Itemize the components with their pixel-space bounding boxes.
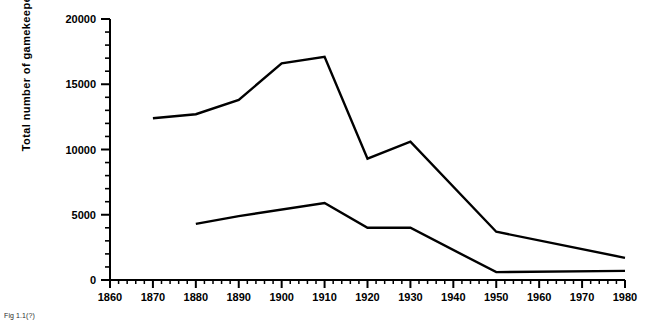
x-tick-label: 1870 — [141, 291, 165, 303]
x-tick-label: 1890 — [227, 291, 251, 303]
x-tick-label: 1910 — [312, 291, 336, 303]
x-tick-label: 1860 — [98, 291, 122, 303]
y-tick-label: 20000 — [65, 13, 96, 25]
line-chart-plot: 05000100001500020000 1860187018801890190… — [0, 0, 654, 310]
x-tick-label: 1900 — [269, 291, 293, 303]
x-tick-label: 1960 — [527, 291, 551, 303]
x-tick-label: 1930 — [398, 291, 422, 303]
x-tick-label: 1940 — [441, 291, 465, 303]
y-tick-label: 15000 — [65, 78, 96, 90]
series-line-lower-series — [196, 203, 625, 272]
x-axis: 1860187018801890190019101920193019401950… — [98, 280, 637, 303]
y-tick-label: 0 — [90, 274, 96, 286]
figure-caption: Fig 1.1(?) — [4, 312, 644, 322]
y-axis-title: Total number of gamekeepers — [20, 0, 32, 178]
x-tick-label: 1970 — [570, 291, 594, 303]
chart-figure: Total number of gamekeepers 050001000015… — [0, 0, 654, 322]
x-tick-label: 1980 — [613, 291, 637, 303]
data-series-group — [153, 57, 625, 272]
y-tick-label: 5000 — [72, 209, 96, 221]
x-tick-label: 1920 — [355, 291, 379, 303]
x-tick-label: 1880 — [184, 291, 208, 303]
y-axis: 05000100001500020000 — [65, 13, 110, 286]
y-tick-label: 10000 — [65, 144, 96, 156]
x-tick-label: 1950 — [484, 291, 508, 303]
